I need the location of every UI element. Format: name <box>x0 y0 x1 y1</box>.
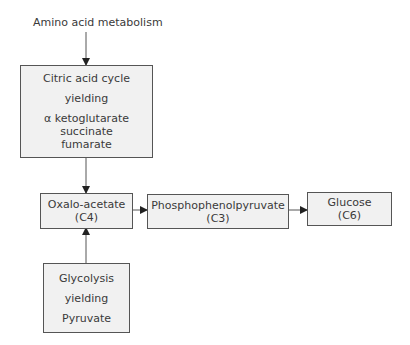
citric-line-4: succinate <box>60 125 113 138</box>
glycolysis-line-2: yielding <box>65 292 108 305</box>
pep-line-1: Phosphophenolpyruvate <box>151 199 285 212</box>
glycolysis-line-1: Glycolysis <box>59 272 114 285</box>
oxalo-line-1: Oxalo-acetate <box>48 198 126 211</box>
glycolysis-box: Glycolysis yielding Pyruvate <box>43 263 130 333</box>
citric-line-3: α ketoglutarate <box>44 112 129 125</box>
glucose-box: Glucose (C6) <box>307 192 392 226</box>
amino-acid-metabolism-label: Amino acid metabolism <box>33 16 141 29</box>
citric-acid-cycle-box: Citric acid cycle yielding α ketoglutara… <box>20 65 153 158</box>
citric-line-5: fumarate <box>61 138 112 151</box>
glycolysis-line-3: Pyruvate <box>62 312 111 325</box>
oxalo-acetate-box: Oxalo-acetate (C4) <box>40 193 133 229</box>
pep-line-2: (C3) <box>206 212 229 225</box>
oxalo-line-2: (C4) <box>75 211 98 224</box>
glucose-line-1: Glucose <box>328 196 372 209</box>
phosphophenolpyruvate-box: Phosphophenolpyruvate (C3) <box>147 194 289 229</box>
citric-line-2: yielding <box>65 92 108 105</box>
citric-line-1: Citric acid cycle <box>43 72 130 85</box>
glucose-line-2: (C6) <box>338 209 361 222</box>
